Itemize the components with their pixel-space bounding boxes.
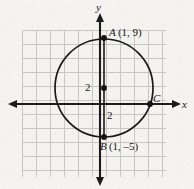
point-a-label: A (1, 9) bbox=[109, 27, 142, 38]
radius-label-upper: 2 bbox=[85, 82, 91, 93]
point-a-marker bbox=[101, 35, 107, 41]
circle-coordinate-figure: y x A (1, 9) B (1, –5) C 2 2 bbox=[0, 0, 194, 189]
x-axis-left-arrow bbox=[8, 100, 17, 108]
figure-canvas bbox=[0, 0, 194, 189]
x-axis-label: x bbox=[182, 99, 187, 110]
point-c-label: C bbox=[153, 93, 160, 104]
y-axis-down-arrow bbox=[96, 177, 104, 186]
point-b-name: B bbox=[100, 140, 107, 152]
y-axis-up-arrow bbox=[96, 13, 104, 22]
x-axis-right-arrow bbox=[172, 100, 181, 108]
y-axis-label: y bbox=[96, 2, 101, 13]
point-a-name: A bbox=[109, 26, 116, 38]
point-a-coords: (1, 9) bbox=[118, 26, 142, 38]
point-c-name: C bbox=[153, 92, 160, 104]
radius-label-lower: 2 bbox=[107, 110, 113, 121]
point-b-coords: (1, –5) bbox=[109, 140, 138, 152]
center-point-marker bbox=[101, 85, 107, 91]
point-b-label: B (1, –5) bbox=[100, 141, 138, 152]
